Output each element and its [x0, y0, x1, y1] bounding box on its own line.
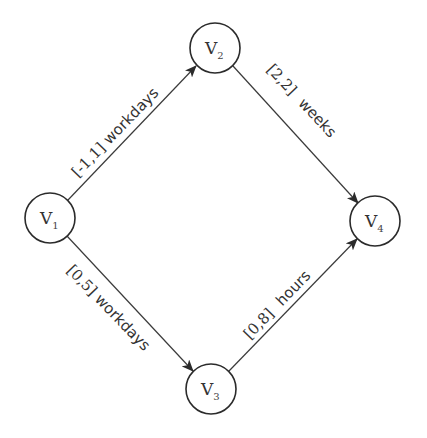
edge-unit-v3-v4: hours	[272, 266, 314, 309]
edge-range-v3-v4: [0,8]	[240, 305, 278, 343]
edge-v3-v4	[229, 239, 357, 371]
edge-range-v2-v4: [2,2]	[263, 60, 300, 98]
node-v2: V2	[190, 23, 240, 73]
edge-range-v1-v2: [-1,1]	[68, 139, 109, 181]
edge-unit-v1-v3: workdays	[91, 290, 154, 354]
node-v3: V3	[186, 364, 236, 414]
edge-label-v1-v2: [-1,1] workdays	[68, 84, 162, 181]
edge-labels: [-1,1] workdays [2,2] weeks [0,5] workda…	[63, 60, 340, 354]
edge-v1-v3	[67, 236, 193, 371]
edge-label-v3-v4: [0,8] hours	[240, 266, 315, 342]
temporal-constraint-graph: [-1,1] workdays [2,2] weeks [0,5] workda…	[0, 0, 427, 438]
edge-unit-v1-v2: workdays	[99, 84, 162, 148]
node-v1: V1	[25, 193, 75, 243]
node-v4: V4	[350, 196, 400, 246]
edge-unit-v2-v4: weeks	[295, 94, 340, 141]
nodes: V1 V2 V3 V4	[25, 23, 400, 414]
edge-label-v2-v4: [2,2] weeks	[263, 60, 340, 141]
edge-v1-v2	[68, 66, 196, 200]
edge-label-v1-v3: [0,5] workdays	[63, 261, 154, 354]
